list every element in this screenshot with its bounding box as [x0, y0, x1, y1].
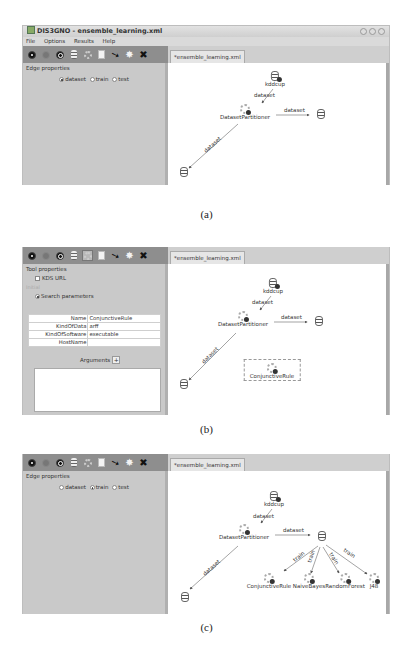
radio-circle[interactable] — [35, 294, 40, 299]
node-dataset-partitioner[interactable]: DatasetPartitioner — [220, 104, 270, 120]
pointer-button[interactable]: ➘ — [110, 457, 121, 468]
radio-circle[interactable] — [112, 485, 117, 490]
radio-dataset[interactable]: dataset — [59, 76, 86, 82]
delete-button[interactable]: ✖ — [138, 250, 149, 261]
document-button[interactable] — [96, 250, 107, 261]
caption-c: (c) — [0, 621, 413, 633]
tab-ensemble-learning[interactable]: *ensemble_learning.xml — [170, 251, 245, 264]
run-button[interactable] — [26, 250, 37, 261]
tab-ensemble-learning[interactable]: *ensemble_learning.xml — [170, 458, 245, 471]
node-dataset-right[interactable] — [315, 316, 323, 326]
node-kddcup[interactable]: kddcup — [264, 491, 284, 507]
gear-tool-icon — [264, 573, 274, 583]
group-title: Tool properties — [23, 264, 165, 274]
burst-button[interactable]: ✸ — [124, 250, 135, 261]
data-icon — [71, 458, 77, 467]
pointer-button[interactable]: ➘ — [110, 49, 121, 60]
node-dataset-right[interactable] — [317, 109, 325, 119]
node-conjunctive-rule-selected[interactable]: ConjunctiveRule — [244, 359, 301, 381]
tab-ensemble-learning[interactable]: *ensemble_learning.xml — [170, 50, 245, 63]
menu-help[interactable]: Help — [103, 38, 116, 44]
properties-sidebar: Edge properties dataset train test — [23, 471, 168, 614]
node-conjunctive-rule[interactable]: ConjunctiveRule — [247, 573, 292, 589]
radio-test[interactable]: test — [112, 484, 129, 490]
node-dataset-left[interactable] — [180, 167, 188, 177]
radio-train[interactable]: train — [90, 76, 109, 82]
menu-results[interactable]: Results — [74, 38, 94, 44]
radio-train[interactable]: train — [90, 484, 109, 490]
node-naive-bayes[interactable]: NaiveBayes — [293, 573, 325, 589]
data-button[interactable] — [68, 49, 79, 60]
arguments-list[interactable] — [34, 368, 161, 412]
node-kddcup[interactable]: kddcup — [265, 71, 285, 87]
menu-options[interactable]: Options — [44, 38, 65, 44]
radio-circle[interactable] — [112, 77, 117, 82]
delete-button[interactable]: ✖ — [138, 49, 149, 60]
radio-circle[interactable] — [90, 485, 95, 490]
minimize-button[interactable] — [360, 28, 367, 35]
tool-button[interactable] — [82, 457, 93, 468]
property-value[interactable]: executable — [88, 331, 161, 339]
app-window: ➘ ✸ ✖ *ensemble_learning.xml Tool proper… — [22, 247, 390, 415]
add-argument-button[interactable]: + — [112, 356, 120, 364]
node-random-forest[interactable]: RandomForest — [325, 573, 365, 589]
search-parameters-option[interactable]: Search parameters — [23, 292, 165, 300]
burst-button[interactable]: ✸ — [124, 49, 135, 60]
edge-label: dataset — [254, 92, 276, 98]
properties-sidebar: Tool properties KDS URL Initial Search p… — [23, 264, 168, 415]
node-dataset-right[interactable] — [318, 531, 326, 541]
gear-tool-icon — [238, 311, 248, 321]
burst-icon: ✸ — [125, 457, 133, 468]
data-button[interactable] — [68, 457, 79, 468]
tool-button[interactable] — [82, 250, 93, 261]
close-button[interactable] — [378, 28, 385, 35]
refresh-button[interactable] — [54, 49, 65, 60]
workflow-canvas[interactable]: dataset dataset dataset kddcup DatasetPa… — [168, 63, 389, 185]
menu-file[interactable]: File — [26, 38, 35, 44]
app-icon — [27, 26, 35, 34]
document-button[interactable] — [96, 457, 107, 468]
refresh-button[interactable] — [54, 457, 65, 468]
data-button[interactable] — [68, 250, 79, 261]
run-button[interactable] — [26, 457, 37, 468]
stop-button[interactable] — [40, 250, 51, 261]
burst-button[interactable]: ✸ — [124, 457, 135, 468]
node-dataset-left[interactable] — [181, 592, 189, 602]
tool-button[interactable] — [82, 49, 93, 60]
title-bar: DIS3GNO - ensemble_learning.xml — [23, 26, 389, 37]
property-value[interactable] — [88, 339, 161, 347]
tab-strip: *ensemble_learning.xml — [168, 247, 389, 264]
radio-test[interactable]: test — [112, 76, 129, 82]
toolbar: ➘ ✸ ✖ — [23, 247, 168, 264]
stop-button[interactable] — [40, 49, 51, 60]
stop-icon — [42, 252, 50, 260]
edge-type-radio-group: dataset train test — [23, 76, 165, 82]
tab-strip: *ensemble_learning.xml — [168, 454, 389, 471]
radio-dataset[interactable]: dataset — [59, 484, 86, 490]
property-value[interactable]: arff — [88, 323, 161, 331]
document-button[interactable] — [96, 49, 107, 60]
gear-tool-icon — [369, 573, 379, 583]
kds-url-option[interactable]: KDS URL — [23, 274, 165, 282]
radio-circle[interactable] — [59, 77, 64, 82]
pointer-button[interactable]: ➘ — [110, 250, 121, 261]
stop-button[interactable] — [40, 457, 51, 468]
node-kddcup[interactable]: kddcup — [263, 278, 283, 294]
radio-circle[interactable] — [59, 485, 64, 490]
workflow-canvas[interactable]: dataset dataset dataset kddcup DatasetPa… — [168, 264, 389, 415]
radio-circle[interactable] — [90, 77, 95, 82]
gear-tool-icon — [340, 573, 350, 583]
node-j48[interactable]: J48 — [369, 573, 379, 589]
workflow-canvas[interactable]: dataset dataset dataset train train trai… — [168, 471, 389, 614]
node-dataset-partitioner[interactable]: DatasetPartitioner — [218, 311, 268, 327]
toolbar: ➘ ✸ ✖ — [23, 454, 168, 471]
refresh-icon — [56, 252, 64, 260]
checkbox[interactable] — [35, 276, 40, 281]
node-dataset-partitioner[interactable]: DatasetPartitioner — [219, 524, 269, 540]
delete-button[interactable]: ✖ — [138, 457, 149, 468]
node-dataset-left[interactable] — [180, 379, 188, 389]
run-button[interactable] — [26, 49, 37, 60]
maximize-button[interactable] — [369, 28, 376, 35]
property-value[interactable]: ConjunctiveRule — [88, 315, 161, 323]
refresh-button[interactable] — [54, 250, 65, 261]
